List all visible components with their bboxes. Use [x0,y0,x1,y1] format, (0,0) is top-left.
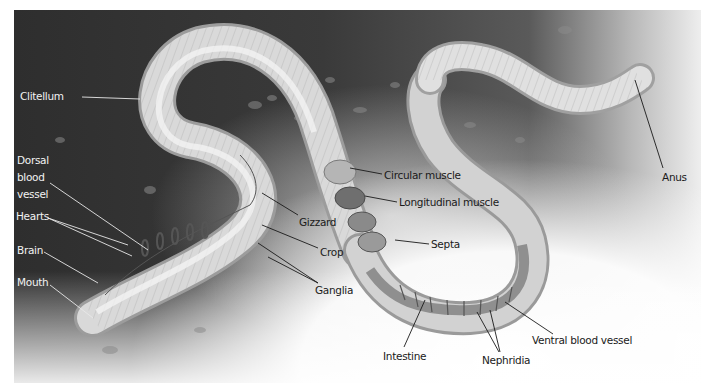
label-ventral-blood-vessel: Ventral blood vessel [532,334,632,346]
label-circular-muscle: Circular muscle [384,169,461,181]
label-dorsal-blood-vessel-3: vessel [17,188,48,200]
label-brain: Brain [17,244,43,256]
earthworm-anatomy-figure: Clitellum Dorsal blood vessel Hearts Bra… [0,0,701,383]
label-gizzard: Gizzard [299,216,336,228]
label-intestine: Intestine [383,350,426,362]
label-hearts: Hearts [16,210,49,222]
label-nephridia: Nephridia [482,354,530,366]
label-dorsal-blood-vessel-1: Dorsal [17,154,49,166]
label-clitellum: Clitellum [20,90,64,102]
label-anus: Anus [662,171,687,183]
label-septa: Septa [431,238,460,250]
label-longitudinal-muscle: Longitudinal muscle [399,196,499,208]
label-crop: Crop [320,246,344,258]
label-mouth: Mouth [17,276,48,288]
label-ganglia: Ganglia [315,284,353,296]
label-dorsal-blood-vessel-2: blood [17,171,45,183]
